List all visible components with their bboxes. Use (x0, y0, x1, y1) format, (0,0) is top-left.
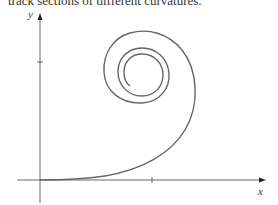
x-axis-label: x (258, 185, 263, 197)
spiral-figure (0, 0, 278, 205)
y-axis-label: y (28, 8, 33, 20)
x-axis-arrow-icon (259, 178, 266, 183)
y-axis-arrow-icon (38, 13, 43, 20)
spiral-curve (40, 31, 195, 180)
